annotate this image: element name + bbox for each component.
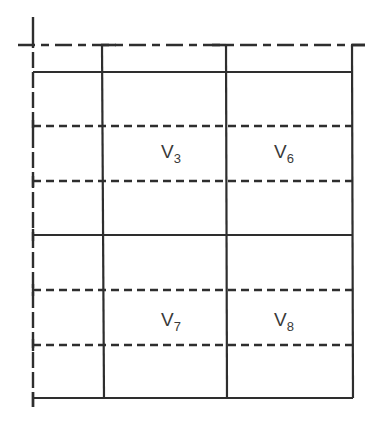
grid-diagram <box>0 0 373 427</box>
label-v7-base: V <box>161 309 174 330</box>
label-v3-base: V <box>161 141 174 162</box>
label-v6-base: V <box>274 141 287 162</box>
label-v3-subscript: 3 <box>174 151 181 166</box>
label-v7-subscript: 7 <box>174 319 181 334</box>
label-v6: V6 <box>274 142 294 165</box>
label-v8: V8 <box>274 310 294 333</box>
label-v7: V7 <box>161 310 181 333</box>
label-v8-base: V <box>274 309 287 330</box>
label-v8-subscript: 8 <box>287 319 294 334</box>
column-divider-2 <box>226 45 227 398</box>
label-v6-subscript: 6 <box>287 151 294 166</box>
label-v3: V3 <box>161 142 181 165</box>
